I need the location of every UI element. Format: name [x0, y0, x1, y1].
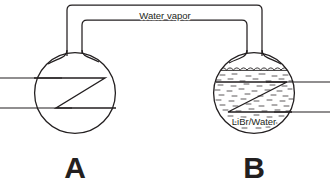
absorption-cycle-diagram: Water vapor A	[0, 0, 330, 186]
flask-a-vessel	[35, 53, 116, 134]
flask-a: A	[0, 50, 116, 184]
diagram-canvas: Water vapor A	[0, 0, 330, 186]
flask-a-id-label: A	[64, 151, 86, 184]
heat-exchanger-coil-a	[34, 78, 116, 108]
flask-b: LiBr/Water B	[213, 50, 330, 184]
vapor-tube: Water vapor	[67, 5, 262, 56]
solution-label: LiBr/Water	[232, 116, 277, 127]
solution-surface-waves	[213, 68, 296, 71]
vapor-tube-label: Water vapor	[139, 10, 190, 21]
vapor-tube-inner-wall	[82, 20, 247, 53]
flask-b-id-label: B	[243, 151, 265, 184]
